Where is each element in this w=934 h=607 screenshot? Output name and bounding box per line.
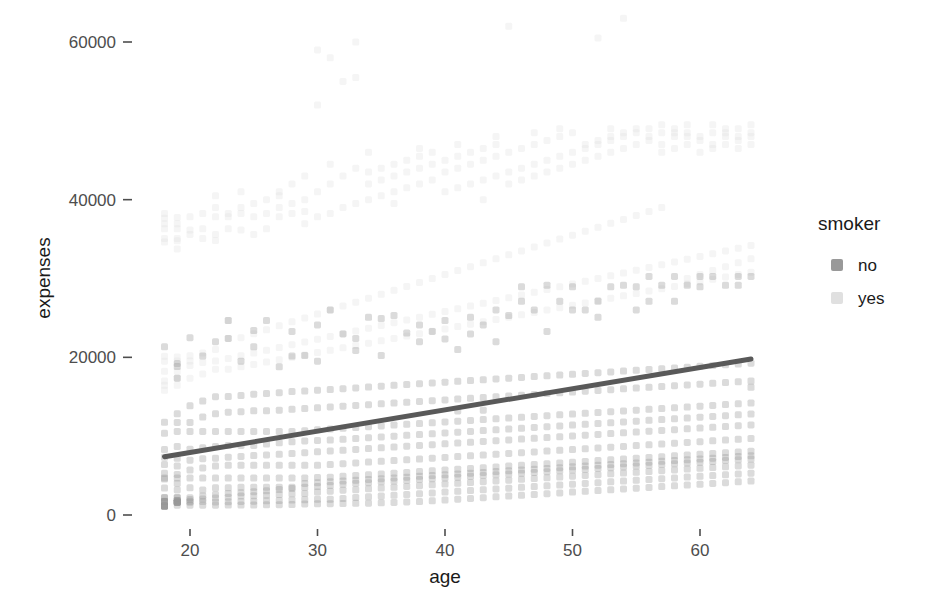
data-point <box>187 334 194 341</box>
data-point <box>480 452 487 459</box>
data-point <box>391 492 398 499</box>
data-point <box>225 335 232 342</box>
data-point <box>505 180 512 187</box>
data-point <box>454 466 461 473</box>
data-point <box>556 447 563 454</box>
data-point <box>709 424 716 431</box>
data-point <box>161 446 168 453</box>
data-point <box>454 496 461 503</box>
data-point <box>301 220 308 227</box>
data-point <box>378 383 385 390</box>
data-point <box>340 303 347 310</box>
data-point <box>505 450 512 457</box>
data-point <box>709 472 716 479</box>
data-point <box>607 125 614 132</box>
data-point <box>403 316 410 323</box>
data-point <box>493 426 500 433</box>
data-point <box>556 283 563 290</box>
data-point <box>212 455 219 462</box>
data-point <box>378 493 385 500</box>
data-point <box>238 408 245 415</box>
data-point <box>250 391 257 398</box>
data-point <box>340 385 347 392</box>
data-point <box>595 275 602 282</box>
data-point <box>365 493 372 500</box>
data-point <box>378 192 385 199</box>
data-point <box>327 347 334 354</box>
data-point <box>199 370 206 377</box>
data-point <box>289 497 296 504</box>
data-point <box>327 306 334 313</box>
data-point <box>454 488 461 495</box>
data-point <box>531 129 538 136</box>
data-point <box>352 39 359 46</box>
data-point <box>174 353 181 360</box>
data-point <box>187 402 194 409</box>
data-point <box>607 444 614 451</box>
data-point <box>709 480 716 487</box>
data-point <box>199 428 206 435</box>
data-point <box>340 495 347 502</box>
data-point <box>697 273 704 280</box>
data-point <box>697 283 704 290</box>
data-point <box>301 462 308 469</box>
data-point <box>658 383 665 390</box>
data-point <box>467 263 474 270</box>
data-point <box>212 491 219 498</box>
data-point <box>480 407 487 414</box>
data-point <box>709 380 716 387</box>
data-point <box>289 388 296 395</box>
data-point <box>212 192 219 199</box>
data-point <box>416 338 423 345</box>
legend-swatch-yes[interactable] <box>831 292 843 304</box>
data-point <box>671 283 678 290</box>
data-point <box>531 161 538 168</box>
data-point <box>684 415 691 422</box>
data-point <box>365 149 372 156</box>
data-point <box>276 192 283 199</box>
data-point <box>429 149 436 156</box>
data-point <box>174 382 181 389</box>
data-point <box>301 405 308 412</box>
data-point <box>442 157 449 164</box>
data-point <box>620 145 627 152</box>
data-point <box>607 149 614 156</box>
data-point <box>263 317 270 324</box>
data-point <box>378 471 385 478</box>
data-point <box>607 486 614 493</box>
data-point <box>276 497 283 504</box>
data-point <box>199 398 206 405</box>
data-point <box>174 235 181 242</box>
data-point <box>352 74 359 81</box>
data-point <box>722 247 729 254</box>
data-point <box>174 220 181 227</box>
data-point <box>327 386 334 393</box>
data-point <box>556 459 563 466</box>
data-point <box>301 475 308 482</box>
data-point <box>493 415 500 422</box>
data-point <box>442 308 449 315</box>
data-point <box>480 176 487 183</box>
data-point <box>263 347 270 354</box>
data-point <box>544 482 551 489</box>
legend-swatch-no[interactable] <box>831 259 843 271</box>
data-point <box>735 273 742 280</box>
data-point <box>467 377 474 384</box>
data-point <box>620 470 627 477</box>
x-tick-label: 60 <box>691 541 710 560</box>
data-point <box>187 375 194 382</box>
data-point <box>212 204 219 211</box>
data-point <box>250 231 257 238</box>
data-point <box>671 474 678 481</box>
data-point <box>263 196 270 203</box>
data-point <box>518 165 525 172</box>
data-point <box>276 451 283 458</box>
data-point <box>505 149 512 156</box>
data-point <box>544 169 551 176</box>
data-point <box>671 145 678 152</box>
data-point <box>289 180 296 187</box>
data-point <box>263 451 270 458</box>
data-point <box>250 462 257 469</box>
data-point <box>276 389 283 396</box>
data-point <box>722 379 729 386</box>
